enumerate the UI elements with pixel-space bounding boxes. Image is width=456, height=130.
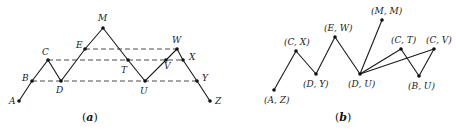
- mountain-polyline: [19, 28, 210, 101]
- label-c: C: [42, 47, 49, 57]
- point-m: [101, 26, 105, 30]
- point-e: [83, 47, 87, 51]
- node-cx: [294, 49, 298, 53]
- path-points: [17, 26, 212, 103]
- edge-ct-bu: [401, 49, 419, 76]
- node-az: [272, 88, 276, 92]
- panel-a-mountain-path: ABCDEMTUVWXYZ (a): [8, 13, 222, 124]
- diagram-canvas: ABCDEMTUVWXYZ (a) (A, Z)(C, X)(D, Y)(E, …: [0, 0, 456, 130]
- label-t: T: [121, 65, 128, 75]
- node-du: [358, 72, 362, 76]
- point-t: [126, 58, 130, 62]
- node-label-du: (D, U): [348, 79, 376, 89]
- mountain-path: [19, 28, 210, 101]
- node-label-bu: (B, U): [408, 81, 435, 91]
- node-bu: [417, 74, 421, 78]
- label-b: B: [21, 73, 29, 83]
- label-w: W: [172, 35, 182, 45]
- node-mm: [380, 18, 384, 22]
- point-w: [175, 47, 179, 51]
- point-b: [30, 79, 34, 83]
- point-d: [59, 79, 63, 83]
- point-u: [143, 79, 147, 83]
- node-label-mm: (M, M): [371, 6, 403, 16]
- label-a: A: [8, 96, 16, 106]
- panel-b-state-graph: (A, Z)(C, X)(D, Y)(E, W)(D, U)(M, M)(C, …: [264, 6, 452, 124]
- edge-az-cx: [274, 51, 296, 90]
- label-e: E: [75, 40, 83, 50]
- point-x: [181, 58, 185, 62]
- edge-du-cv: [360, 49, 434, 74]
- node-label-dy: (D, Y): [303, 79, 329, 89]
- node-label-ct: (C, T): [391, 35, 417, 45]
- edge-ew-du: [335, 37, 360, 74]
- label-y: Y: [202, 73, 209, 83]
- edge-du-mm: [360, 20, 382, 74]
- node-cv: [432, 47, 436, 51]
- label-d: D: [55, 85, 63, 95]
- node-dy: [314, 72, 318, 76]
- node-label-az: (A, Z): [264, 95, 290, 105]
- label-v: V: [164, 61, 172, 71]
- label-x: X: [188, 52, 196, 62]
- point-labels: ABCDEMTUVWXYZ: [8, 13, 222, 106]
- point-y: [195, 79, 199, 83]
- edge-dy-ew: [316, 37, 335, 74]
- edge-cx-dy: [296, 51, 316, 74]
- node-label-ew: (E, W): [324, 23, 353, 33]
- label-z: Z: [214, 96, 222, 106]
- edge-du-ct: [360, 49, 401, 74]
- node-label-cv: (C, V): [426, 35, 452, 45]
- label-m: M: [97, 13, 108, 23]
- node-ew: [333, 35, 337, 39]
- label-u: U: [140, 86, 148, 96]
- panel-a-caption: (a): [82, 111, 98, 124]
- node-label-cx: (C, X): [284, 37, 310, 47]
- point-z: [208, 99, 212, 103]
- node-labels: (A, Z)(C, X)(D, Y)(E, W)(D, U)(M, M)(C, …: [264, 6, 452, 105]
- point-a: [17, 99, 21, 103]
- panel-b-caption: (b): [335, 111, 351, 124]
- point-c: [46, 58, 50, 62]
- node-ct: [399, 47, 403, 51]
